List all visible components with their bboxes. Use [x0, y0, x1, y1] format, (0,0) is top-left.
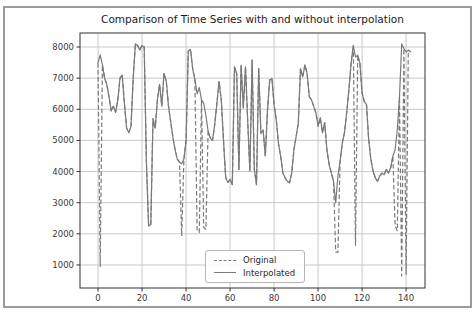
y-tick-label: 1000: [52, 260, 74, 270]
x-tick-label: 140: [398, 293, 414, 303]
legend-item-interpolated: Interpolated: [214, 269, 295, 278]
y-tick-label: 2000: [52, 229, 74, 239]
chart-title: Comparison of Time Series with and witho…: [80, 13, 425, 25]
y-tick-label: 5000: [52, 135, 74, 145]
x-tick-label: 100: [310, 293, 326, 303]
y-tick-label: 6000: [52, 104, 74, 114]
legend: Original Interpolated: [205, 250, 305, 283]
x-tick-label: 40: [181, 293, 192, 303]
y-tick-label: 8000: [52, 42, 74, 52]
x-tick-label: 120: [354, 293, 370, 303]
figure: 0204060801001201401000200030004000500060…: [0, 0, 476, 319]
legend-label-original: Original: [243, 256, 276, 265]
x-tick-label: 60: [225, 293, 236, 303]
legend-item-original: Original: [214, 256, 295, 265]
x-tick-label: 80: [269, 293, 280, 303]
y-tick-label: 7000: [52, 73, 74, 83]
y-tick-label: 3000: [52, 198, 74, 208]
x-tick-label: 0: [95, 293, 100, 303]
solid-line-sample: [214, 272, 236, 273]
legend-label-interpolated: Interpolated: [243, 269, 295, 278]
y-tick-label: 4000: [52, 167, 74, 177]
x-tick-label: 20: [137, 293, 148, 303]
dashed-line-sample: [214, 260, 236, 261]
